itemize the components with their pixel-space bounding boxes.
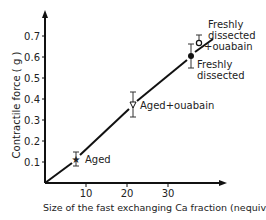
y-tick-label: 0.7 (24, 31, 40, 42)
x-axis-label: Size of the fast exchanging Ca fraction … (43, 202, 266, 213)
y-tick-label: 0.5 (24, 73, 40, 84)
label-fresh-line2: dissected (197, 70, 245, 81)
point-labels: Aged Aged+ouabain Freshly dissected Fres… (85, 19, 256, 165)
x-ticks: 10 20 30 (80, 183, 175, 199)
x-tick-label: 30 (162, 188, 175, 199)
y-axis-label: Contractile force ( g ) (11, 52, 22, 159)
fit-line (45, 39, 213, 183)
y-tick-label: 0.3 (24, 115, 40, 126)
label-aged: Aged (85, 154, 111, 165)
y-tick-label: 0.1 (24, 157, 40, 168)
label-fresh-ouabain-line3: +ouabain (204, 41, 253, 52)
y-tick-label: 0.6 (24, 52, 40, 63)
label-aged-ouabain: Aged+ouabain (140, 100, 214, 111)
open-circle-marker-icon (196, 40, 201, 45)
y-tick-label: 0.4 (24, 94, 40, 105)
triangle-marker-icon (130, 102, 136, 108)
star-marker-icon: ★ (72, 154, 81, 165)
filled-circle-marker-icon (188, 53, 194, 59)
x-tick-label: 20 (121, 188, 134, 199)
y-ticks: 0.1 0.2 0.3 0.4 0.5 0.6 0.7 (24, 31, 45, 168)
label-fresh-ouabain-line2: dissected (208, 30, 256, 41)
x-tick-label: 10 (80, 188, 93, 199)
x-axis-arrow-icon (219, 180, 227, 186)
label-fresh-line1: Freshly (197, 59, 232, 70)
chart: 0.1 0.2 0.3 0.4 0.5 0.6 0.7 10 20 30 Siz… (0, 0, 266, 220)
label-fresh-ouabain-line1: Freshly (208, 19, 243, 30)
y-tick-label: 0.2 (24, 136, 40, 147)
y-axis-arrow-icon (42, 10, 48, 18)
